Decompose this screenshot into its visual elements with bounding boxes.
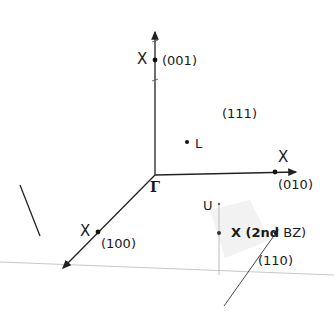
label-u: U — [203, 199, 213, 212]
label-dir-100: (100) — [101, 237, 136, 250]
label-x-100: X — [80, 224, 90, 239]
label-gamma: Γ — [150, 180, 160, 194]
point-x-010 — [273, 170, 278, 175]
point-x-2nd-bz — [217, 231, 221, 235]
side-arrow — [20, 185, 40, 236]
label-plane-111: (111) — [222, 107, 257, 120]
label-dir-001: (001) — [162, 54, 197, 67]
axis-100 — [63, 175, 155, 268]
label-x-2nd-tail: BZ) — [283, 225, 306, 240]
point-u — [218, 203, 220, 205]
label-x-2nd-main: X (2nd — [231, 225, 279, 240]
point-l — [185, 140, 189, 144]
label-x-2nd-bz: X (2nd BZ) — [231, 226, 306, 239]
point-x-001 — [153, 58, 158, 63]
point-x-100 — [96, 230, 101, 235]
label-dir-010: (010) — [278, 178, 313, 191]
label-dir-110: (110) — [258, 254, 293, 267]
label-l: L — [195, 137, 202, 150]
label-x-010: X — [278, 150, 288, 165]
label-x-001: X — [137, 52, 147, 67]
